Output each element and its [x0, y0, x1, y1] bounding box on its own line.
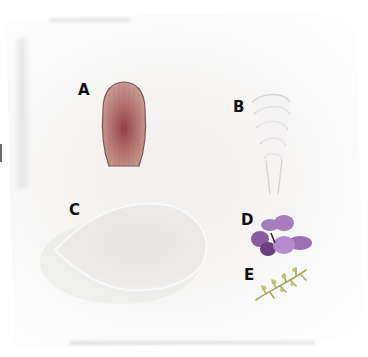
- specimen-a: [95, 80, 153, 170]
- edge-mark: [0, 144, 2, 162]
- label-b: B: [233, 100, 244, 115]
- specimen-d: [246, 213, 318, 263]
- specimen-c: [30, 190, 220, 310]
- specimen-b: [244, 88, 304, 196]
- sheet-shadow-top: [50, 18, 130, 22]
- sheet-shadow-left: [14, 38, 30, 188]
- sheet-shadow-bottom: [70, 341, 315, 345]
- specimen-e: [252, 266, 312, 306]
- label-a: A: [78, 83, 90, 98]
